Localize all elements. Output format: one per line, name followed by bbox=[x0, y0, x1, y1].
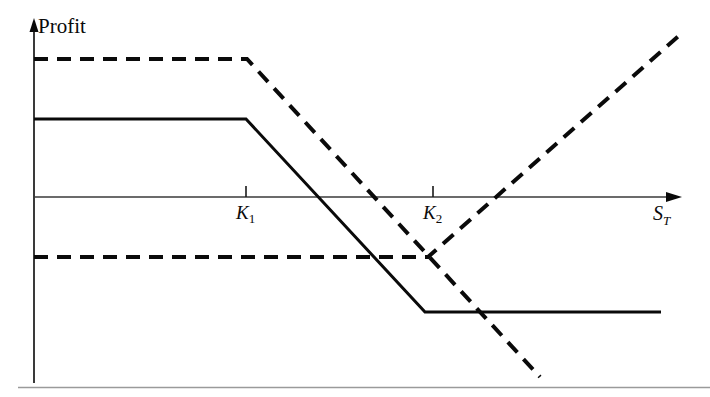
series-solid-payoff bbox=[34, 119, 661, 312]
tick-label-k2-subscript: 2 bbox=[436, 211, 443, 226]
tick-label-k1: K1 bbox=[236, 203, 255, 222]
y-axis-label: Profit bbox=[38, 16, 86, 37]
profit-diagram-svg bbox=[0, 0, 710, 397]
series-dashed-payoff-upper bbox=[34, 59, 540, 377]
tick-label-k2-base: K bbox=[423, 202, 436, 223]
tick-label-k2: K2 bbox=[423, 203, 442, 222]
tick-label-k1-base: K bbox=[236, 202, 249, 223]
series-dashed-payoff-lower bbox=[34, 33, 682, 257]
x-axis-arrowhead bbox=[666, 192, 682, 202]
figure-container: Profit ST K1 K2 bbox=[0, 0, 710, 397]
x-axis-label-subscript: T bbox=[663, 213, 670, 228]
tick-label-k1-subscript: 1 bbox=[249, 211, 256, 226]
x-axis-label: ST bbox=[653, 203, 670, 223]
x-axis-label-base: S bbox=[653, 202, 663, 224]
